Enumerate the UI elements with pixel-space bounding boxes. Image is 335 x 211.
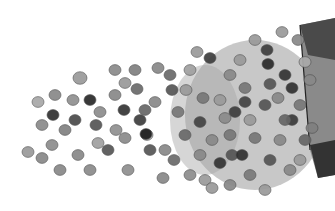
seed — [172, 107, 184, 118]
seed — [47, 110, 59, 121]
seed — [279, 70, 291, 81]
seed — [134, 115, 146, 126]
seed — [54, 165, 66, 176]
seed — [59, 125, 71, 136]
seed — [122, 165, 134, 176]
seed — [184, 65, 196, 76]
seed — [259, 185, 271, 196]
seed — [197, 93, 209, 104]
seed — [157, 173, 169, 184]
seed — [152, 63, 164, 74]
seed — [49, 90, 61, 101]
seed — [239, 97, 251, 108]
seed — [119, 133, 131, 144]
seed — [118, 105, 130, 116]
seed — [119, 78, 131, 89]
seed — [140, 129, 152, 140]
seed — [84, 165, 96, 176]
seed — [279, 115, 291, 126]
seed — [249, 133, 261, 144]
seed — [234, 55, 246, 66]
seed — [224, 70, 236, 81]
seed — [46, 140, 58, 151]
seed — [206, 135, 218, 146]
seed — [292, 35, 304, 46]
seed — [129, 65, 141, 76]
seed — [249, 35, 261, 46]
seed-spill-illustration — [0, 0, 335, 211]
seed — [299, 135, 311, 146]
seed — [284, 165, 296, 176]
seed — [206, 183, 218, 194]
seed — [194, 117, 206, 128]
seed — [180, 85, 192, 96]
seed — [22, 147, 34, 158]
seed — [69, 115, 81, 126]
seed — [109, 90, 121, 101]
seed — [224, 130, 236, 141]
seed — [276, 27, 288, 38]
seed — [261, 45, 273, 56]
seed — [92, 138, 104, 149]
seed — [36, 153, 48, 164]
seed — [214, 158, 226, 169]
seed — [204, 53, 216, 64]
seed — [131, 84, 143, 95]
seed — [149, 97, 161, 108]
seed — [67, 95, 79, 106]
seed — [244, 170, 256, 181]
seed — [306, 123, 318, 134]
seed — [219, 113, 231, 124]
seed — [244, 115, 256, 126]
seed — [164, 70, 176, 81]
seed — [259, 100, 271, 111]
seed — [294, 155, 306, 166]
seed — [239, 83, 251, 94]
seed — [168, 155, 180, 166]
seed — [272, 93, 284, 104]
seed — [90, 120, 102, 131]
seed — [214, 95, 226, 106]
seed — [110, 125, 122, 136]
seed — [299, 57, 311, 68]
seed — [294, 100, 306, 111]
seed — [36, 120, 48, 131]
seed — [236, 150, 248, 161]
seed — [194, 150, 206, 161]
seed — [166, 85, 178, 96]
seed — [72, 150, 84, 161]
seed — [179, 130, 191, 141]
seed — [264, 79, 276, 90]
seed — [224, 180, 236, 191]
seed — [109, 65, 121, 76]
illustration-canvas — [0, 0, 335, 211]
seed — [144, 145, 156, 156]
seed — [274, 135, 286, 146]
seed — [159, 145, 171, 156]
seed — [84, 95, 96, 106]
seed — [32, 97, 44, 108]
seed — [139, 105, 151, 116]
seed — [264, 155, 276, 166]
seed — [286, 83, 298, 94]
seed — [184, 170, 196, 181]
seed — [73, 72, 87, 85]
seed — [304, 75, 316, 86]
seed — [94, 107, 106, 118]
seed — [191, 47, 203, 58]
seed — [102, 145, 114, 156]
seed — [262, 59, 274, 70]
